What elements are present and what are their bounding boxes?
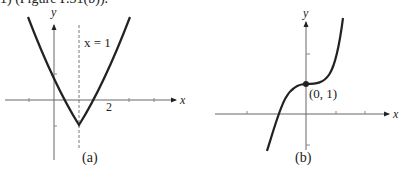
figure-canvas: y x x = 1 2 y x (0, 1) <box>0 0 401 172</box>
y-label-a: y <box>50 5 57 19</box>
intercept-label: 2 <box>106 100 112 114</box>
x-label-b: x <box>392 107 399 121</box>
caption-a: (a) <box>82 150 98 166</box>
caption-b: (b) <box>295 150 311 166</box>
figure-b: y x (0, 1) <box>215 6 399 151</box>
x-label-a: x <box>179 93 186 107</box>
point-label: (0, 1) <box>309 86 337 101</box>
symmetry-label: x = 1 <box>84 35 111 50</box>
figure-a: y x x = 1 2 <box>5 5 186 172</box>
y-label-b: y <box>302 6 309 20</box>
